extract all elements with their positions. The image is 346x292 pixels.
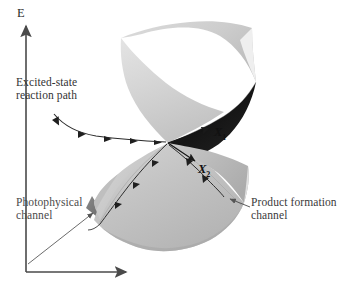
axis-group (26, 26, 126, 272)
vector-x2-label: X2 (198, 162, 210, 179)
lower-ground-state-surface (86, 143, 249, 251)
conical-intersection-figure: E Excited-state reaction path Photophysi… (0, 0, 346, 292)
excited-state-reaction-path-label: Excited-state reaction path (16, 76, 77, 102)
product-formation-channel-label: Product formation channel (251, 196, 337, 222)
photophysical-channel-label: Photophysical channel (16, 196, 82, 222)
vector-x1-subscript: 1 (222, 133, 226, 142)
vector-x2-subscript: 2 (206, 170, 210, 179)
vector-x1-label: X1 (214, 125, 226, 142)
diagram-canvas (0, 0, 346, 292)
energy-axis-label: E (17, 6, 25, 20)
photophysical-path-tail (88, 224, 100, 230)
